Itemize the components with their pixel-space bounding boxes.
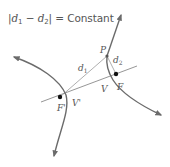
right-branch-upper (107, 15, 121, 56)
label-F: F (116, 82, 124, 92)
label-V-prime: V' (72, 98, 81, 108)
label-F-prime: F' (56, 103, 66, 113)
focus-F (114, 72, 118, 76)
label-d1: d1 (78, 63, 88, 74)
focus-F-prime (58, 95, 62, 99)
label-P: P (99, 45, 107, 55)
hyperbola-diagram: P d1 d2 F V F' V' (0, 0, 170, 167)
label-d2: d2 (113, 55, 123, 66)
label-V: V (101, 84, 109, 94)
